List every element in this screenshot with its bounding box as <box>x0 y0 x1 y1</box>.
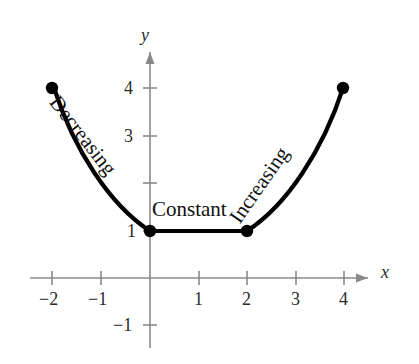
dot-left-endpoint <box>46 82 58 94</box>
y-tick-label-1: 1 <box>127 222 136 240</box>
x-tick-label--2: −2 <box>39 290 58 308</box>
dot-constant-start <box>144 225 156 237</box>
y-tick-label-3: 3 <box>124 127 133 145</box>
y-tick-label-4: 4 <box>124 79 133 97</box>
x-tick-label-2: 2 <box>242 290 251 308</box>
dot-right-endpoint <box>337 82 349 94</box>
x-tick-label-1: 1 <box>194 290 203 308</box>
x-axis-label: x <box>381 263 389 281</box>
y-axis-label: y <box>141 26 149 44</box>
y-tick-label--1: −1 <box>113 316 132 334</box>
x-axis-arrow <box>356 274 368 283</box>
plot-canvas <box>0 0 419 364</box>
annotation-constant: Constant <box>152 199 227 220</box>
x-tick-label--1: −1 <box>88 290 107 308</box>
graph-figure: y x −2 −1 1 2 3 4 4 3 1 −1 Decreasing Co… <box>0 0 419 364</box>
y-axis-arrow <box>146 52 155 64</box>
x-tick-label-3: 3 <box>291 290 300 308</box>
x-tick-label-4: 4 <box>339 290 348 308</box>
